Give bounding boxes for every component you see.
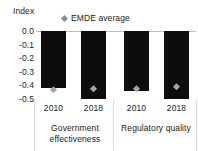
group-label-line: Regulatory quality (114, 123, 198, 134)
y-tick-label: 0.0 (8, 26, 34, 36)
y-tick-label: -0.2 (8, 53, 34, 63)
y-axis-title: Index (13, 6, 34, 16)
chart-legend: EMDE average (62, 13, 130, 23)
group-label-government-effectiveness: Government effectiveness (36, 123, 114, 145)
diamond-icon (61, 14, 68, 21)
x-axis-group-labels: Government effectiveness Regulatory qual… (30, 123, 198, 151)
group-label-line: effectiveness (36, 134, 114, 145)
group-label-line: Government (36, 123, 114, 134)
bar-govt-effectiveness-2010 (41, 31, 66, 88)
x-tick-label: 2018 (156, 103, 197, 113)
plot-area (36, 31, 196, 99)
legend-item-label: EMDE average (71, 13, 130, 23)
y-tick-label: -0.5 (8, 94, 34, 104)
x-tick-label: 2010 (33, 103, 74, 113)
y-tick-label: -0.1 (8, 40, 34, 50)
y-tick-label: -0.4 (8, 80, 34, 90)
x-tick-label: 2018 (73, 103, 114, 113)
y-axis-ticks: 0.0 -0.1 -0.2 -0.3 -0.4 -0.5 (5, 31, 34, 99)
group-label-regulatory-quality: Regulatory quality (114, 123, 198, 134)
chart-container: Index EMDE average 0.0 -0.1 -0.2 -0.3 -0… (0, 0, 198, 151)
x-axis-ticks: 2010 2018 2010 2018 (36, 103, 196, 115)
x-tick-label: 2010 (116, 103, 157, 113)
y-tick-label: -0.3 (8, 67, 34, 77)
bar-regulatory-quality-2010 (124, 31, 149, 91)
